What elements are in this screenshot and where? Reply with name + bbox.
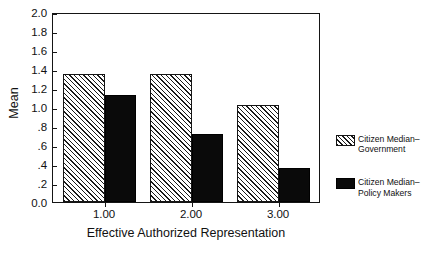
legend-label: Citizen Median– Government (358, 134, 420, 154)
x-axis-title: Effective Authorized Representation (52, 226, 320, 240)
y-tick-label: 2.0 (5, 8, 47, 20)
x-tick-mark (192, 202, 193, 207)
x-tick-label: 2.00 (161, 208, 221, 220)
x-tick-mark (279, 202, 280, 207)
bar-policy-makers-3.00 (279, 168, 310, 202)
y-tick-label: 1.8 (5, 27, 47, 39)
y-tick-label: .4 (5, 160, 47, 172)
y-tick-label: .6 (5, 141, 47, 153)
y-tick-label: 1.4 (5, 65, 47, 77)
x-tick-mark (105, 202, 106, 207)
y-tick-mark (53, 128, 57, 129)
y-tick-label: 1.2 (5, 84, 47, 96)
legend: Citizen Median– Government Citizen Media… (336, 134, 429, 221)
y-tick-mark (53, 90, 57, 91)
bar-government-3.00 (237, 105, 279, 202)
y-tick-mark (53, 166, 57, 167)
bar-policy-makers-2.00 (192, 134, 223, 202)
plot-area (52, 13, 320, 203)
legend-swatch-solid-icon (336, 178, 355, 189)
y-tick-label: 1.6 (5, 46, 47, 58)
legend-label: Citizen Median– Policy Makers (358, 177, 420, 197)
y-tick-label: 0.0 (5, 198, 47, 210)
legend-item-policy-makers: Citizen Median– Policy Makers (336, 177, 429, 197)
y-tick-mark (53, 109, 57, 110)
y-tick-mark (53, 147, 57, 148)
bar-policy-makers-1.00 (105, 95, 136, 202)
y-tick-mark (53, 52, 57, 53)
legend-swatch-hatched-icon (336, 135, 355, 146)
y-tick-mark (53, 14, 57, 15)
y-tick-label: 1.0 (5, 103, 47, 115)
y-tick-mark (53, 33, 57, 34)
x-tick-label: 3.00 (248, 208, 308, 220)
legend-item-government: Citizen Median– Government (336, 134, 429, 154)
x-tick-label: 1.00 (74, 208, 134, 220)
y-tick-label: .8 (5, 122, 47, 134)
y-tick-mark (53, 185, 57, 186)
y-tick-mark (53, 71, 57, 72)
bar-chart-figure: Mean 2.0 1.8 1.6 1.4 1.2 1.0 .8 .6 .4 .2… (0, 0, 429, 259)
bar-government-2.00 (150, 74, 192, 202)
bar-government-1.00 (63, 74, 105, 202)
y-tick-label: .2 (5, 179, 47, 191)
